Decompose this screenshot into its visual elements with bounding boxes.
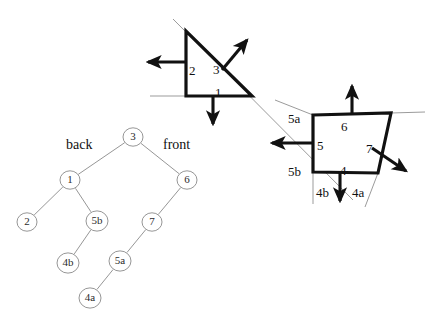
quad-label-5: 5: [317, 139, 324, 152]
tri-label-2: 2: [189, 64, 196, 77]
figure-canvas: 2315a6575b44b4abackfront31625b74b5a4a: [0, 0, 425, 325]
edge-5b-4b: [74, 230, 90, 254]
quad-label-4: 4: [340, 164, 347, 177]
split-line-6: [391, 112, 425, 113]
edge-6-7: [158, 188, 180, 215]
tri-label-3: 3: [213, 63, 220, 76]
tree-label-back: back: [66, 138, 92, 151]
node-5b-label: 5b: [83, 215, 111, 226]
node-3-label: 3: [119, 131, 147, 142]
quad-label-5a: 5a: [288, 112, 300, 125]
node-6-label: 6: [173, 174, 201, 185]
quad-label-4b: 4b: [316, 186, 329, 199]
edge-5a-4a: [97, 270, 113, 290]
node-1-label: 1: [56, 174, 84, 185]
figure-svg: [0, 0, 425, 325]
edge-1-5b: [75, 188, 90, 211]
front-polygon-quad: [313, 113, 391, 173]
node-5a-label: 5a: [106, 255, 134, 266]
quad-label-5b: 5b: [288, 165, 301, 178]
polygon-group: [186, 31, 391, 173]
tri-label-1: 1: [215, 86, 222, 99]
quad-label-6: 6: [341, 120, 348, 133]
quad-label-7: 7: [366, 142, 373, 155]
edge-7-5a: [127, 230, 146, 253]
tree-label-front: front: [163, 138, 190, 151]
quad-label-4a: 4a: [352, 186, 364, 199]
node-7-label: 7: [138, 216, 166, 227]
node-4b-label: 4b: [54, 257, 82, 268]
normal-3: [222, 40, 247, 70]
split-line-4a: [365, 173, 378, 207]
edge-1-2: [34, 187, 63, 215]
node-2-label: 2: [13, 216, 41, 227]
node-4a-label: 4a: [76, 292, 104, 303]
